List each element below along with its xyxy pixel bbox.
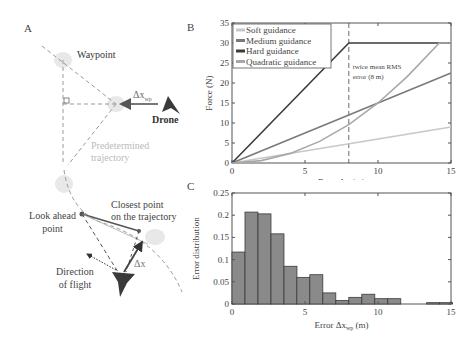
direction-label: Direction of flight xyxy=(53,265,97,291)
y-tick-label: 20 xyxy=(220,78,230,88)
y-tick-label: 0.25 xyxy=(213,188,229,198)
legend-entry: Hard guidance xyxy=(246,46,299,56)
y-tick-label: 0.05 xyxy=(213,277,229,287)
direction-line1: Direction xyxy=(53,265,97,278)
force-chart: 05101505101520253035Error Δx (m)Force (N… xyxy=(180,0,476,180)
y-tick-label: 10 xyxy=(220,118,230,128)
annotation-line1: twice mean RMS xyxy=(353,63,402,71)
y-tick-label: 0 xyxy=(225,299,230,309)
y-tick-label: 5 xyxy=(225,138,230,148)
closest-point-line1: Closest point xyxy=(111,199,177,211)
waypoint-label: Waypoint xyxy=(77,49,116,60)
annotation-line2: error (8 m) xyxy=(353,73,384,81)
y-tick-label: 30 xyxy=(220,38,230,48)
x-tick-label: 15 xyxy=(447,307,457,317)
look-ahead-label: Look ahead point xyxy=(26,209,79,235)
trajectory-label: Predetermined trajectory xyxy=(91,140,149,164)
histogram-bar xyxy=(297,277,310,304)
closest-point-label: Closest point on the trajectory xyxy=(111,199,177,223)
x-tick-label: 0 xyxy=(230,166,235,176)
drone-icon xyxy=(162,96,180,114)
right-angle-marker xyxy=(64,98,69,103)
error-histogram: 05101500.050.10.150.20.25Error Δxwp (m)E… xyxy=(180,180,476,341)
histogram-bar xyxy=(375,299,388,304)
drone-bottom-icon xyxy=(112,272,135,297)
histogram-bar xyxy=(362,294,375,304)
delta-xwp-label: Δxwp xyxy=(133,89,152,102)
histogram-bar xyxy=(310,275,323,304)
y-tick-label: 25 xyxy=(220,58,230,68)
legend-entry: Quadratic guidance xyxy=(246,57,316,67)
trajectory-label-line2: trajectory xyxy=(91,152,149,164)
delta-x-label: Δx xyxy=(134,258,145,269)
histogram-bar xyxy=(245,212,258,304)
x-tick-label: 15 xyxy=(447,166,457,176)
waypoint-marker-low xyxy=(55,175,73,193)
y-tick-label: 15 xyxy=(220,98,230,108)
direction-line2: of flight xyxy=(53,278,97,291)
y-tick-label: 0.2 xyxy=(218,210,229,220)
y-tick-label: 0.15 xyxy=(213,232,229,242)
delta-xwp-text: Δx xyxy=(133,89,144,100)
drone-label: Drone xyxy=(152,114,178,125)
look-ahead-line1: Look ahead xyxy=(26,209,79,222)
y-axis-label: Force (N) xyxy=(204,75,214,110)
legend-entry: Medium guidance xyxy=(246,36,311,46)
legend-entry: Soft guidance xyxy=(246,25,296,35)
x-tick-label: 10 xyxy=(374,307,384,317)
delta-xwp-sub: wp xyxy=(144,96,151,102)
y-tick-label: 0 xyxy=(225,158,230,168)
x-tick-label: 0 xyxy=(230,307,235,317)
histogram-bar xyxy=(271,234,284,304)
histogram-bar xyxy=(388,299,401,304)
histogram-bar xyxy=(323,293,336,304)
histogram-bar xyxy=(427,303,440,304)
look-ahead-line2: point xyxy=(26,222,79,235)
histogram-bar xyxy=(258,214,271,304)
trajectory-dashed-lines xyxy=(42,46,182,292)
waypoint-marker-closest xyxy=(145,229,165,245)
histogram-bar xyxy=(284,266,297,304)
y-tick-label: 0.1 xyxy=(218,255,229,265)
y-tick-label: 35 xyxy=(220,18,230,28)
closest-point-line2: on the trajectory xyxy=(111,211,177,223)
histogram-bar xyxy=(349,297,362,304)
histogram-bar xyxy=(336,300,349,304)
trajectory-label-line1: Predetermined xyxy=(91,140,149,152)
x-tick-label: 5 xyxy=(303,307,308,317)
x-tick-label: 5 xyxy=(303,166,308,176)
y-axis-label: Error distribution xyxy=(191,217,201,280)
legend: Soft guidanceMedium guidanceHard guidanc… xyxy=(233,24,331,68)
x-axis-label: Error Δxwp (m) xyxy=(314,320,368,331)
x-tick-label: 10 xyxy=(374,166,384,176)
